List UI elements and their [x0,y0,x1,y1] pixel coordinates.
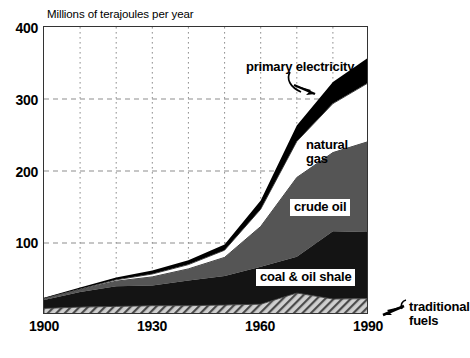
x-tick-label-1960: 1960 [230,318,290,334]
traditional-fuels-line1: traditional [409,299,470,314]
x-tick-label-1990: 1990 [338,318,398,334]
x-tick-label-1900: 1900 [14,318,74,334]
annotation-traditional-fuels: traditional fuels [409,300,470,328]
chart-title: Millions of terajoules per year [47,8,193,20]
annotation-natural-gas: natural gas [306,138,348,166]
natural-gas-line1: natural [306,137,348,152]
annotation-coal-oil-shale: coal & oil shale [256,269,355,286]
annotation-crude-oil: crude oil [290,199,350,216]
y-tick-label-100: 100 [2,235,38,251]
y-tick-label-300: 300 [2,92,38,108]
y-tick-label-400: 400 [2,20,38,36]
natural-gas-line2: gas [306,151,328,166]
x-tick-label-1930: 1930 [122,318,182,334]
traditional-fuels-line2: fuels [409,313,438,328]
y-tick-label-200: 200 [2,164,38,180]
annotation-primary-electricity: primary electricity [246,60,354,74]
